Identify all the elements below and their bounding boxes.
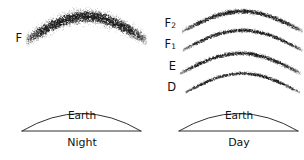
- earth-label-day: Earth: [225, 109, 253, 121]
- layer-label-day-d: D: [167, 80, 176, 94]
- panel-caption-night: Night: [67, 136, 97, 149]
- ionosphere-figure: FEarthNightF2F1EDEarthDay: [0, 0, 304, 160]
- layer-label-day-f2-subscript: 2: [171, 21, 176, 30]
- figure-canvas: FEarthNightF2F1EDEarthDay: [0, 0, 304, 160]
- layer-label-day-f1-subscript: 1: [171, 42, 176, 51]
- earth-label-night: Earth: [68, 109, 96, 121]
- figure-background: [0, 0, 304, 160]
- layer-label-night-f: F: [15, 31, 22, 45]
- layer-label-day-e: E: [169, 59, 176, 73]
- panel-caption-day: Day: [228, 136, 250, 149]
